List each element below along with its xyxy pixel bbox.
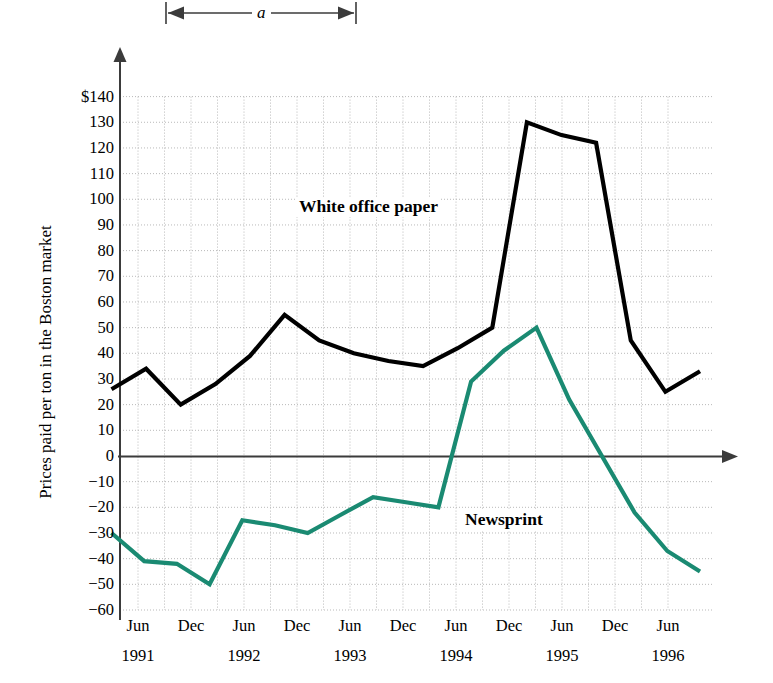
- x-axis-tick-labels: Jun1991DecJun1992DecJun1993DecJun1994Dec…: [0, 0, 773, 683]
- x-tick-label-month: Jun: [445, 618, 468, 635]
- chart-figure: a $1401301201101009080706050403020100−10…: [0, 0, 773, 683]
- x-tick-label-month: Dec: [390, 618, 417, 635]
- x-tick-label-year: 1995: [546, 648, 579, 665]
- x-tick-label-year: 1991: [122, 648, 155, 665]
- x-tick-label-month: Dec: [496, 618, 523, 635]
- x-tick-label-month: Jun: [127, 618, 150, 635]
- x-tick-label-month: Jun: [233, 618, 256, 635]
- x-tick-label-year: 1994: [440, 648, 473, 665]
- y-axis-title: Prices paid per ton in the Boston market: [36, 152, 56, 572]
- series-label-white-office-paper: White office paper: [296, 197, 441, 217]
- series-label-newsprint: Newsprint: [462, 510, 546, 530]
- x-tick-label-year: 1992: [228, 648, 261, 665]
- x-tick-label-month: Dec: [178, 618, 205, 635]
- x-tick-label-month: Dec: [284, 618, 311, 635]
- x-tick-label-month: Dec: [602, 618, 629, 635]
- x-tick-label-month: Jun: [339, 618, 362, 635]
- x-tick-label-year: 1996: [652, 648, 685, 665]
- x-tick-label-year: 1993: [334, 648, 367, 665]
- x-tick-label-month: Jun: [657, 618, 680, 635]
- x-tick-label-month: Jun: [551, 618, 574, 635]
